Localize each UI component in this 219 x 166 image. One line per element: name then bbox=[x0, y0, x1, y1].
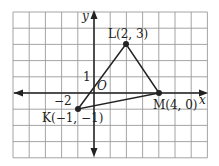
y-axis-label: y bbox=[81, 9, 89, 23]
point-k-label: K(−1, −1) bbox=[42, 111, 103, 125]
tick-label-y-1: 1 bbox=[83, 70, 91, 84]
tick-label-x-minus-2: −2 bbox=[54, 94, 72, 108]
x-axis-label: x bbox=[199, 93, 206, 107]
point-m-label: M(4, 0) bbox=[153, 98, 198, 112]
point-m bbox=[156, 90, 162, 96]
y-axis-arrow-up-icon bbox=[91, 10, 98, 19]
x-axis bbox=[14, 90, 208, 97]
x-axis-arrow-left-icon bbox=[14, 90, 23, 97]
point-l bbox=[123, 41, 129, 47]
y-axis-arrow-down-icon bbox=[91, 148, 98, 157]
coordinate-plane: y x O 1 −2 L(2, 3) M(4, 0) K(−1, −1) bbox=[0, 0, 219, 166]
point-l-label: L(2, 3) bbox=[108, 27, 148, 41]
origin-label: O bbox=[97, 79, 107, 93]
